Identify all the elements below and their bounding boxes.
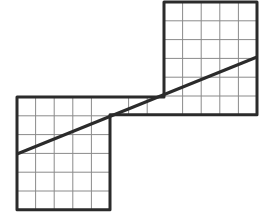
lower-left-rect [17, 97, 110, 210]
diagonal-line [17, 57, 257, 154]
grid-diagram [0, 0, 273, 214]
upper-right-rect [164, 2, 257, 115]
